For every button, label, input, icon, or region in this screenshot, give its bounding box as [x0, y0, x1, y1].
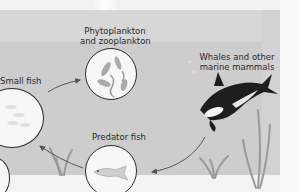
- predator-fish-label: Predator fish: [84, 132, 154, 142]
- predator-fish-icon: [86, 146, 138, 192]
- small-fish-node: [0, 88, 44, 148]
- predator-fish-node: [85, 145, 137, 192]
- small-fish-icon: [0, 89, 45, 149]
- orca-icon: [0, 0, 300, 192]
- small-fish-label: Small fish: [0, 76, 44, 86]
